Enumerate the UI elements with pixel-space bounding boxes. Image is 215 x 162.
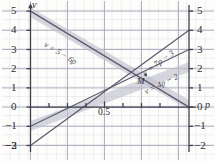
right-tick-4: 4 <box>197 24 203 35</box>
left-tick-neg1: −1 <box>5 120 17 131</box>
left-tick-4: 4 <box>11 24 17 35</box>
right-tick-0: 0 <box>197 101 203 112</box>
v-axis-label: v <box>32 0 36 10</box>
minor-gridlines <box>2 2 214 160</box>
left-tick-5: 5 <box>11 5 17 16</box>
right-tick-neg2: −2 <box>194 140 206 151</box>
p-axis-label: p <box>205 100 210 110</box>
right-tick-3: 3 <box>197 44 203 55</box>
right-tick-1: 1 <box>197 82 203 93</box>
right-tick-2: 2 <box>197 63 203 74</box>
left-tick-2: 2 <box>11 63 17 74</box>
left-tick-3: 3 <box>11 44 17 55</box>
right-tick-neg1: −1 <box>194 120 206 131</box>
graph-canvas <box>0 0 215 162</box>
left-tick-neg3: −3 <box>5 140 17 151</box>
graph-figure: 5 4 3 2 1 0 −1 −2 −3 −3 5 4 3 2 1 0 −1 −… <box>0 0 215 162</box>
right-tick-5: 5 <box>197 5 203 16</box>
p-tick-half-label: 0.5 <box>98 108 110 118</box>
left-tick-0: 0 <box>11 101 17 112</box>
point-M-label: M <box>137 77 145 86</box>
left-tick-1: 1 <box>11 82 17 93</box>
